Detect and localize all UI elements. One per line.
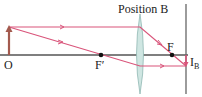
focal-point-left bbox=[99, 53, 104, 58]
position-title: Position B bbox=[118, 3, 168, 15]
image-label: IB bbox=[190, 56, 199, 71]
converging-lens bbox=[137, 14, 144, 94]
image-label-sub: B bbox=[194, 62, 199, 71]
lens-ray-diagram: Position B O F′ F IB bbox=[0, 0, 202, 97]
object-arrow-head-icon bbox=[6, 25, 13, 32]
object-label: O bbox=[4, 59, 13, 71]
focal-left-label: F′ bbox=[95, 59, 104, 71]
focal-right-label: F bbox=[167, 41, 174, 53]
